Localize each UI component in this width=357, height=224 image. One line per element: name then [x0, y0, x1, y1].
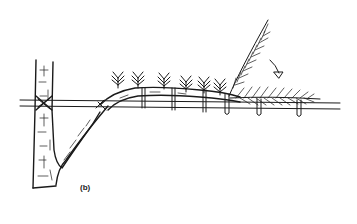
- trunk-tie: [36, 96, 52, 110]
- panel-label: (b): [80, 183, 90, 192]
- terminal-shoot-upright: [229, 20, 270, 96]
- tree-trunk: [33, 60, 108, 188]
- bend-arrow-icon: [270, 60, 283, 78]
- support-wire: [20, 100, 340, 109]
- upright-shoots: [112, 72, 226, 95]
- branch-training-drawing: [0, 0, 357, 224]
- illustration: (b): [0, 0, 357, 224]
